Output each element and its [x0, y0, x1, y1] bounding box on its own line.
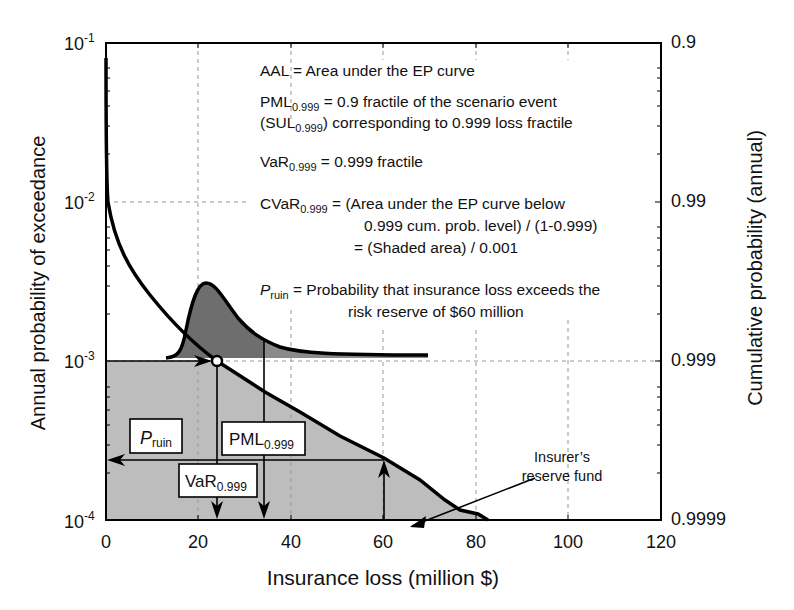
svg-text:10-3: 10-3: [64, 349, 95, 372]
reserve-callout-line2: reserve fund: [522, 468, 603, 484]
svg-text:0.9999: 0.9999: [671, 509, 726, 529]
y-axis-title-left: Annual probability of exceedance: [27, 136, 49, 431]
svg-text:10-2: 10-2: [64, 190, 95, 213]
svg-text:0.999: 0.999: [671, 350, 716, 370]
annotation-block: AAL = Area under the EP curve PML0.999 =…: [260, 62, 600, 320]
y-tick-labels-left: 10-1 10-2 10-3 10-4: [64, 31, 95, 532]
svg-text:0: 0: [101, 532, 111, 552]
annotation-sul: (SUL0.999) corresponding to 0.999 loss f…: [260, 114, 573, 134]
annotation-pruin-line2: risk reserve of $60 million: [348, 303, 524, 320]
annotation-pml: PML0.999 = 0.9 fractile of the scenario …: [260, 93, 557, 113]
svg-text:10-1: 10-1: [64, 31, 95, 54]
y-tick-labels-right: 0.9 0.99 0.999 0.9999: [671, 32, 726, 529]
svg-text:60: 60: [373, 532, 393, 552]
annotation-cvar-line3: = (Shaded area) / 0.001: [354, 239, 518, 256]
svg-text:0.9: 0.9: [671, 32, 696, 52]
annotation-cvar-line2: 0.999 cum. prob. level) / (1-0.999): [364, 217, 597, 234]
svg-text:40: 40: [281, 532, 301, 552]
x-axis-title: Insurance loss (million $): [267, 566, 499, 589]
chart-canvas: Pruin PML0.999 VaR0.999 AAL = Area under…: [0, 0, 794, 610]
svg-text:80: 80: [466, 532, 486, 552]
reserve-callout-line1: Insurer’s: [534, 449, 590, 465]
annotation-var: VaR0.999 = 0.999 fractile: [260, 153, 423, 173]
svg-text:100: 100: [553, 532, 583, 552]
svg-text:120: 120: [646, 532, 676, 552]
annotation-pruin: Pruin = Probability that insurance loss …: [260, 281, 600, 301]
svg-text:10-4: 10-4: [64, 509, 95, 532]
svg-text:20: 20: [188, 532, 208, 552]
var-point-marker: [212, 356, 222, 366]
x-tick-labels: 0 20 40 60 80 100 120: [101, 532, 676, 552]
svg-text:0.99: 0.99: [671, 191, 706, 211]
annotation-cvar: CVaR0.999 = (Area under the EP curve bel…: [260, 195, 566, 215]
annotation-aal: AAL = Area under the EP curve: [260, 62, 475, 79]
y-axis-title-right: Cumulative probability (annual): [744, 130, 766, 406]
